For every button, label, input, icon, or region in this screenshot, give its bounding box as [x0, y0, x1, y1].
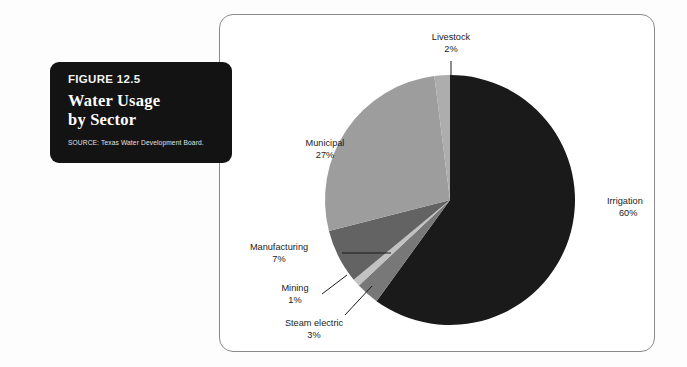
label-irrigation-name: Irrigation	[607, 196, 643, 206]
figure-title-line-2: by Sector	[68, 110, 219, 129]
label-livestock-name: Livestock	[432, 32, 471, 42]
figure-source: SOURCE: Texas Water Development Board.	[68, 139, 219, 147]
label-manufacturing-name: Manufacturing	[250, 242, 308, 252]
label-steam-electric-name: Steam electric	[285, 318, 344, 328]
leader-line-mining	[322, 275, 347, 294]
figure-title-line-1: Water Usage	[68, 91, 219, 110]
figure-title: Water Usage by Sector	[68, 91, 219, 130]
figure-caption-card: FIGURE 12.5 Water Usage by Sector SOURCE…	[50, 62, 232, 163]
pie-slices	[325, 75, 575, 325]
label-mining-value: 1%	[288, 295, 301, 305]
label-livestock-value: 2%	[444, 44, 457, 54]
label-municipal-name: Municipal	[306, 138, 345, 148]
label-municipal-value: 27%	[316, 150, 334, 160]
pie-chart: Livestock 2% Irrigation 60% Municipal 27…	[219, 14, 655, 352]
label-mining-name: Mining	[281, 283, 308, 293]
label-irrigation-value: 60%	[619, 208, 637, 218]
leader-line-steam-electric	[345, 286, 372, 315]
figure-screenshot: Livestock 2% Irrigation 60% Municipal 27…	[0, 0, 687, 367]
label-steam-electric-value: 3%	[307, 330, 320, 340]
figure-number: FIGURE 12.5	[68, 73, 219, 86]
label-manufacturing-value: 7%	[272, 254, 285, 264]
